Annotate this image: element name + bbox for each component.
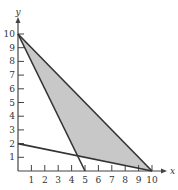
- x-tick-label: 9: [136, 175, 142, 185]
- x-tick-label: 4: [69, 175, 75, 185]
- chart: 1234567891012345678910xy: [0, 0, 178, 190]
- x-tick-label: 2: [42, 175, 48, 185]
- x-tick-label: 5: [82, 175, 88, 185]
- y-tick-label: 5: [9, 98, 15, 108]
- y-axis-label: y: [14, 7, 21, 17]
- y-tick-label: 4: [9, 111, 15, 121]
- y-tick-label: 9: [9, 43, 15, 53]
- y-axis-arrow-icon: [16, 17, 21, 23]
- y-tick-label: 3: [9, 125, 15, 135]
- x-tick-label: 10: [146, 175, 158, 185]
- x-axis-arrow-icon: [161, 169, 167, 174]
- x-tick-label: 3: [55, 175, 61, 185]
- x-tick-label: 7: [109, 175, 115, 185]
- y-tick-label: 6: [9, 84, 15, 94]
- y-tick-label: 1: [9, 152, 15, 162]
- x-tick-label: 6: [96, 175, 102, 185]
- x-tick-label: 1: [29, 175, 35, 185]
- y-tick-label: 2: [9, 139, 15, 149]
- y-tick-label: 10: [4, 29, 16, 39]
- chart-canvas: 1234567891012345678910xy: [0, 0, 178, 190]
- y-tick-label: 8: [9, 56, 15, 66]
- x-axis-label: x: [170, 166, 175, 176]
- x-tick-label: 8: [122, 175, 128, 185]
- y-tick-label: 7: [9, 70, 15, 80]
